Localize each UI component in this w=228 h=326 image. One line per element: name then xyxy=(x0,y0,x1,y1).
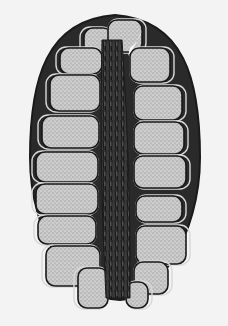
segment xyxy=(32,151,98,183)
specimen-drawing xyxy=(0,0,228,326)
segment xyxy=(38,115,99,149)
segment xyxy=(56,47,102,75)
specimen-figure xyxy=(0,0,228,326)
segment xyxy=(134,85,186,121)
segment xyxy=(34,215,96,245)
segment xyxy=(74,267,108,309)
segment xyxy=(136,225,190,265)
segment xyxy=(134,121,188,155)
segment xyxy=(32,183,98,215)
segment xyxy=(136,195,186,223)
segment xyxy=(46,74,100,112)
segment xyxy=(134,155,190,189)
segment xyxy=(130,47,174,83)
